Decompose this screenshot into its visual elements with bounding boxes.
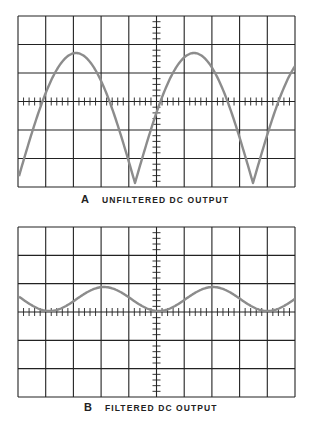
panel-title: UNFILTERED DC OUTPUT xyxy=(102,195,229,205)
scope-panel-filtered xyxy=(18,227,295,397)
panel-letter: A xyxy=(81,193,89,205)
oscilloscope-figure xyxy=(0,0,313,432)
panel-letter: B xyxy=(84,401,92,413)
caption-filtered: BFILTERED DC OUTPUT xyxy=(84,401,218,413)
scope-panel-unfiltered xyxy=(18,16,295,187)
graticule xyxy=(18,16,295,187)
panel-title: FILTERED DC OUTPUT xyxy=(105,403,218,413)
caption-unfiltered: AUNFILTERED DC OUTPUT xyxy=(81,193,229,205)
